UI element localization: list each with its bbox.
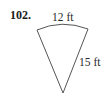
radius-label: 15 ft [79,56,100,68]
arc-length-label: 12 ft [52,11,73,23]
sector-arc [37,24,88,30]
sector-left-radius [37,30,63,93]
